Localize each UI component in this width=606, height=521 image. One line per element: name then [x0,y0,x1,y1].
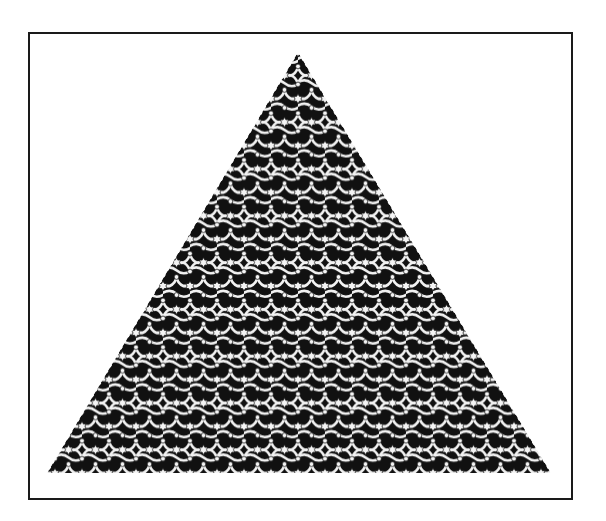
figure-canvas [0,0,606,521]
